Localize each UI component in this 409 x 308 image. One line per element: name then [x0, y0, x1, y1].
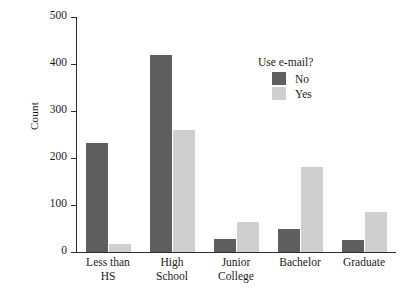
x-axis-label-line: Less than — [76, 256, 140, 270]
y-tick-label: 200 — [27, 150, 67, 162]
bar — [150, 55, 172, 252]
bar — [365, 212, 387, 252]
x-axis-category-labels: Less thanHSHighSchoolJuniorCollegeBachel… — [76, 256, 396, 302]
legend-item: Yes — [258, 87, 368, 100]
x-axis-label: HighSchool — [140, 256, 204, 283]
x-axis-label-line: College — [204, 270, 268, 284]
plot-area: 0100200300400500 — [76, 17, 396, 252]
x-axis-label-line: High — [140, 256, 204, 270]
x-axis-label-line: HS — [76, 270, 140, 284]
bar — [173, 130, 195, 252]
y-tick-label: 300 — [27, 103, 67, 115]
y-tick-label: 500 — [27, 9, 67, 21]
bars-layer — [76, 17, 396, 252]
legend-title: Use e-mail? — [258, 56, 368, 68]
bar — [109, 244, 131, 252]
bar-chart: Count 0100200300400500 Less thanHSHighSc… — [0, 0, 409, 308]
y-axis-title: Count — [28, 86, 40, 146]
y-tick-label: 0 — [27, 244, 67, 256]
y-tick-label: 400 — [27, 56, 67, 68]
x-axis-label: JuniorCollege — [204, 256, 268, 283]
x-axis-label: Less thanHS — [76, 256, 140, 283]
bar — [237, 222, 259, 252]
x-axis-line — [76, 252, 396, 253]
legend-label: No — [295, 73, 309, 85]
x-axis-label-line: School — [140, 270, 204, 284]
legend-swatch-icon — [272, 87, 286, 100]
x-axis-label-line: Bachelor — [268, 256, 332, 270]
bar — [278, 229, 300, 253]
bar — [214, 239, 236, 252]
legend-entries: NoYes — [258, 72, 368, 100]
legend-swatch-icon — [272, 72, 286, 85]
bar — [301, 167, 323, 252]
y-tick-mark — [71, 252, 76, 253]
x-axis-label-line: Graduate — [332, 256, 396, 270]
x-axis-label-line: Junior — [204, 256, 268, 270]
legend: Use e-mail? NoYes — [258, 56, 368, 100]
x-axis-label: Graduate — [332, 256, 396, 270]
bar — [342, 240, 364, 252]
x-axis-label: Bachelor — [268, 256, 332, 270]
y-tick-label: 100 — [27, 197, 67, 209]
bar — [86, 143, 108, 252]
legend-item: No — [258, 72, 368, 85]
legend-label: Yes — [295, 88, 312, 100]
